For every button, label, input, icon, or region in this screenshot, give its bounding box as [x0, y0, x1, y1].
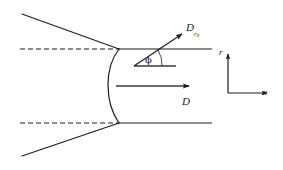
label-normal-velocity-subscript: r0	[194, 30, 199, 38]
angle-arc	[158, 50, 162, 66]
label-axial-velocity: D	[182, 96, 190, 107]
figure-container: Dr0 D ϕ r x	[0, 0, 283, 170]
diagram-canvas	[0, 0, 283, 170]
label-normal-velocity: Dr0	[186, 22, 199, 36]
label-axis-x: x	[263, 88, 267, 97]
upper-asymptote-line	[22, 14, 119, 49]
label-normal-velocity-base: D	[186, 21, 194, 33]
label-angle-phi: ϕ	[145, 55, 152, 65]
label-normal-velocity-subscript-zero: 0	[197, 33, 200, 38]
label-axis-r: r	[219, 48, 223, 57]
lower-asymptote-line	[22, 123, 119, 156]
